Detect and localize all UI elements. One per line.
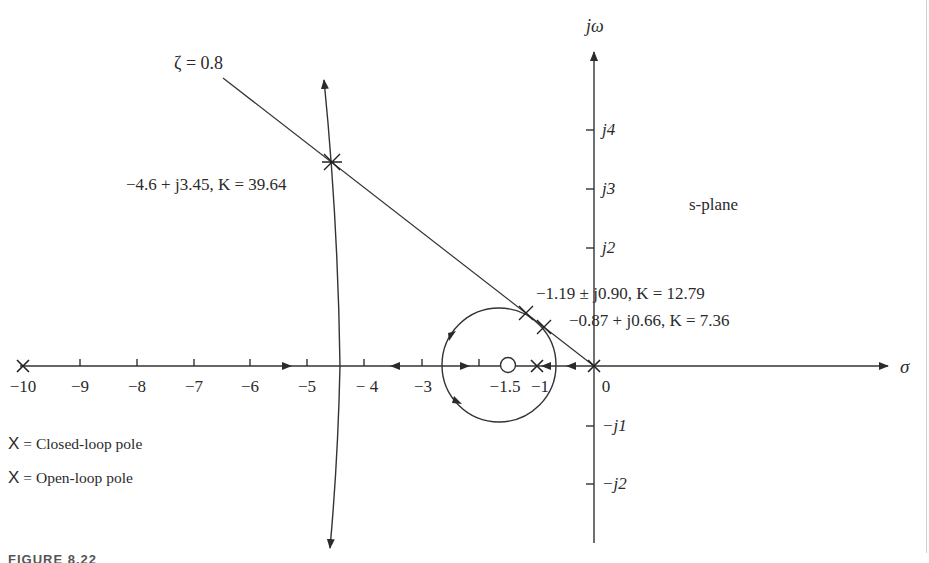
y-tick-label: j3 (602, 179, 615, 199)
zeta-label: ζ = 0.8 (174, 54, 223, 72)
right-border (926, 0, 927, 553)
locus-branch-upper (324, 80, 340, 366)
x-tick-label: −1 (531, 377, 549, 397)
open-loop-pole-icon: X (8, 468, 19, 487)
y-tick-label: j4 (602, 120, 615, 140)
x-tick-label: 0 (602, 377, 611, 397)
x-tick-label: −9 (71, 377, 89, 397)
real-axis-label: σ (900, 357, 909, 376)
x-tick-label: −5 (298, 377, 316, 397)
legend-open-label: = Open-loop pole (23, 469, 132, 486)
y-ticks (586, 130, 594, 484)
figure-caption: FIGURE 8.22 (8, 552, 97, 563)
x-tick-label: −3 (414, 377, 432, 397)
locus-branch-lower (330, 366, 340, 548)
root-locus-figure: ζ = 0.8 −4.6 + j3.45, K = 39.64 −1.19 ± … (0, 0, 929, 563)
imag-axis-label: jω (586, 17, 604, 35)
legend-closed-loop: X= Closed-loop pole (8, 434, 142, 454)
x-tick-label: −6 (241, 377, 259, 397)
x-tick-label: −8 (128, 377, 146, 397)
x-tick-label: − 4 (356, 377, 378, 397)
x-ticks (80, 359, 479, 366)
pole-label-b: −1.19 ± j0.90, K = 12.79 (536, 285, 705, 302)
legend-closed-label: = Closed-loop pole (23, 435, 142, 452)
legend-open-loop: X= Open-loop pole (8, 468, 133, 488)
x-tick-label: −1.5 (490, 377, 521, 397)
root-locus-plot (0, 0, 929, 563)
x-tick-label: −10 (10, 377, 37, 397)
open-loop-zero (501, 358, 516, 373)
pole-label-c: −0.87 + j0.66, K = 7.36 (569, 312, 730, 329)
y-tick-label: j2 (602, 238, 615, 258)
closed-loop-pole-icon: X (8, 434, 19, 453)
plane-label: s-plane (689, 196, 738, 213)
x-tick-label: −7 (185, 377, 203, 397)
y-tick-label: −j2 (602, 474, 627, 494)
pole-label-a: −4.6 + j3.45, K = 39.64 (126, 176, 287, 193)
y-tick-label: −j1 (602, 416, 627, 436)
